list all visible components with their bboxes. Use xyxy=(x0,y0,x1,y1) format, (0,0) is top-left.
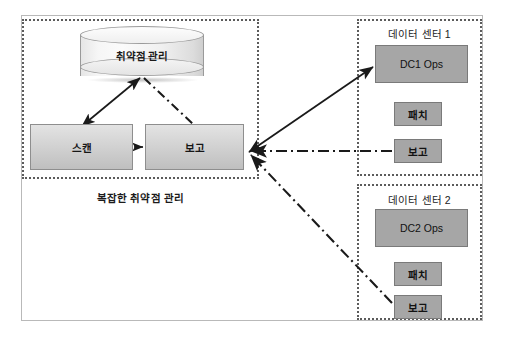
group-vulnerability-management-label: 복잡한 취약점 관리 xyxy=(22,190,259,205)
process-box-scan[interactable]: 스캔 xyxy=(30,124,133,170)
datastore-cylinder: 취약점 관리 xyxy=(80,26,204,76)
cylinder-shadow xyxy=(88,77,198,83)
dc-box-dc2-patch-label: 패치 xyxy=(408,267,428,282)
dc-box-dc1-ops-label: DC1 Ops xyxy=(400,58,443,70)
datastore-label: 취약점 관리 xyxy=(80,48,204,63)
process-box-scan-label: 스캔 xyxy=(72,140,92,155)
dc-box-dc2-ops[interactable]: DC2 Ops xyxy=(375,209,468,247)
group-data-center-2-label: 데이터 센터 2 xyxy=(357,192,482,207)
dc-box-dc1-report-label: 보고 xyxy=(408,144,428,159)
process-box-report[interactable]: 보고 xyxy=(145,124,244,170)
dc-box-dc1-patch-label: 패치 xyxy=(408,107,428,122)
dc-box-dc2-ops-label: DC2 Ops xyxy=(400,222,443,234)
process-box-report-label: 보고 xyxy=(185,140,205,155)
dc-box-dc2-report-label: 보고 xyxy=(408,300,428,315)
dc-box-dc1-patch[interactable]: 패치 xyxy=(394,102,442,126)
dc-box-dc1-ops[interactable]: DC1 Ops xyxy=(375,45,468,83)
cylinder-top-ellipse-icon xyxy=(80,26,204,44)
diagram-canvas: 취약점 관리 스캔 보고 xyxy=(0,0,505,341)
dc-box-dc1-report[interactable]: 보고 xyxy=(394,139,442,163)
dc-box-dc2-patch[interactable]: 패치 xyxy=(394,262,442,286)
dc-box-dc2-report[interactable]: 보고 xyxy=(394,295,442,319)
group-data-center-1-label: 데이터 센터 1 xyxy=(357,26,482,41)
